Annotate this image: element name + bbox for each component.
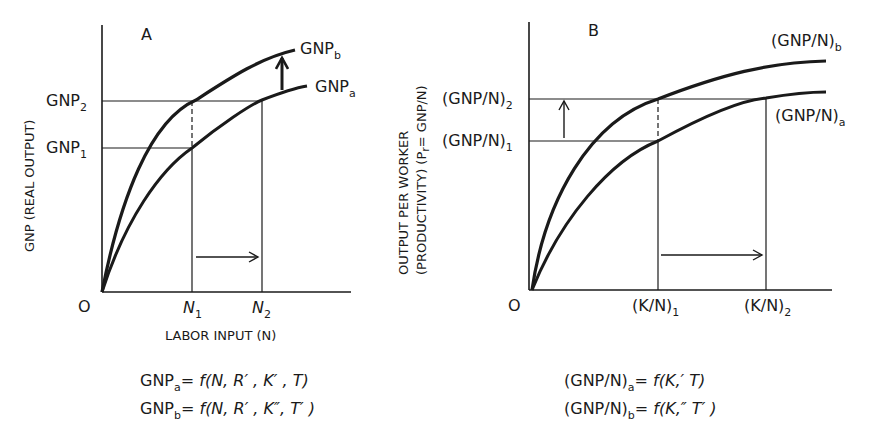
- panel-a-title: A: [141, 25, 152, 44]
- panel-a: A GNPb GNPa GNP2 GNP1 O N1 N2 LABOR INPU…: [22, 25, 356, 422]
- panel-b-y-tick-level1: (GNP/N)1: [442, 131, 513, 154]
- panel-b-x-tick-kn1: (K/N)1: [632, 296, 679, 319]
- panel-a-curve-a-label: GNPa: [315, 77, 356, 100]
- panel-a-x-tick-n2: N2: [252, 298, 271, 321]
- panel-a-x-axis-label: LABOR INPUT (N): [165, 328, 276, 343]
- panel-a-origin: O: [78, 297, 91, 316]
- panel-b-y-axis-label-line1: OUTPUT PER WORKER: [396, 131, 411, 275]
- panel-a-equation-a: GNPa= f(N, R′ , K′ , T): [140, 371, 309, 394]
- panel-b-y-tick-level2: (GNP/N)2: [442, 89, 513, 112]
- panel-b-equation-a: (GNP/N)a= f(K,′ T): [564, 371, 705, 394]
- panel-b-curve-a-label: (GNP/N)a: [775, 106, 846, 129]
- panel-b-y-axis-label-line2: (PRODUCTIVITY) (Pr= GNP/N): [414, 85, 432, 275]
- panel-a-y-tick-gnp1: GNP1: [46, 138, 87, 161]
- panel-a-x-tick-n1: N1: [183, 298, 202, 321]
- panel-a-curve-gnp-b: [102, 50, 295, 292]
- panel-b-x-tick-kn2: (K/N)2: [744, 296, 791, 319]
- panel-a-y-tick-gnp2: GNP2: [46, 91, 87, 114]
- panel-b-equation-b: (GNP/N)b= f(K,″ T′ ): [564, 399, 717, 422]
- panel-b: B (GNP/N)b (GNP/N)a (GNP/N)2 (GNP/N)1 O …: [396, 21, 846, 422]
- panel-a-y-axis-label: GNP (REAL OUTPUT): [22, 120, 37, 252]
- panel-a-curve-gnp-a: [102, 86, 307, 292]
- panel-b-curve-b-label: (GNP/N)b: [771, 31, 842, 54]
- panel-b-origin: O: [508, 296, 521, 315]
- panel-a-equation-b: GNPb= f(N, R′ , K″, T′ ): [140, 399, 315, 422]
- production-function-diagram: A GNPb GNPa GNP2 GNP1 O N1 N2 LABOR INPU…: [0, 0, 877, 446]
- panel-a-curve-b-label: GNPb: [300, 39, 341, 62]
- panel-b-title: B: [588, 21, 599, 40]
